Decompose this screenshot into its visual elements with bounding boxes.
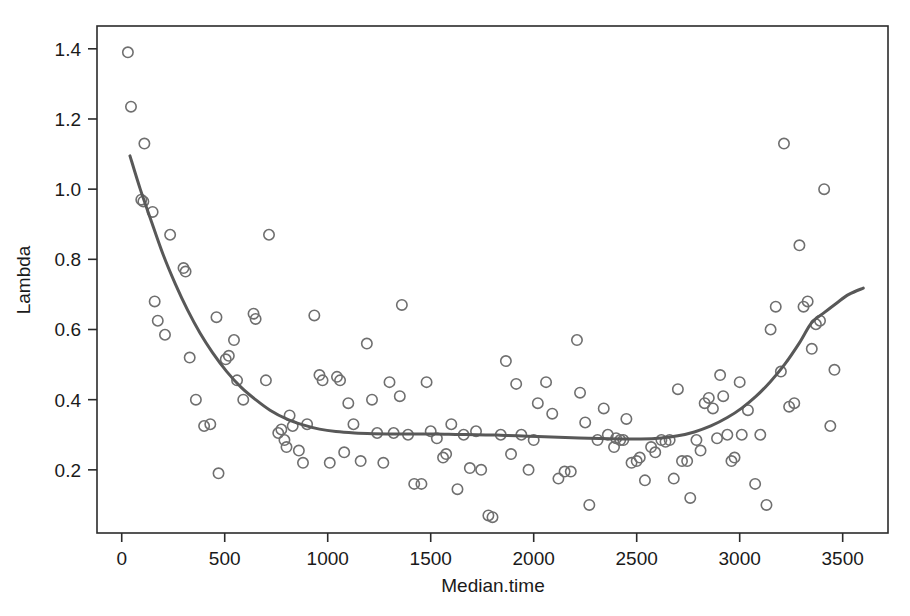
y-tick-label: 1.0 [55, 179, 81, 200]
plot-background [0, 0, 910, 616]
x-tick-label: 1500 [410, 548, 452, 569]
x-tick-label: 2000 [513, 548, 555, 569]
y-axis-title: Lambda [13, 245, 34, 314]
scatter-plot: 0500100015002000250030003500 0.20.40.60.… [0, 0, 910, 616]
y-tick-label: 0.2 [55, 460, 81, 481]
x-tick-label: 3500 [822, 548, 864, 569]
y-tick-label: 1.4 [55, 39, 82, 60]
x-tick-label: 3000 [719, 548, 761, 569]
chart-figure: 0500100015002000250030003500 0.20.40.60.… [0, 0, 910, 616]
y-tick-label: 0.8 [55, 249, 81, 270]
x-axis-title: Median.time [441, 575, 545, 596]
y-tick-label: 0.4 [55, 390, 82, 411]
y-tick-label: 1.2 [55, 109, 81, 130]
y-tick-label: 0.6 [55, 319, 81, 340]
x-tick-label: 500 [209, 548, 241, 569]
x-tick-label: 1000 [307, 548, 349, 569]
x-tick-label: 0 [116, 548, 127, 569]
x-tick-label: 2500 [616, 548, 658, 569]
